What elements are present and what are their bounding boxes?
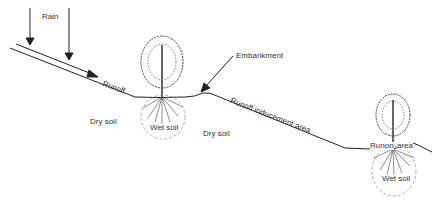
tree-icon bbox=[141, 36, 183, 97]
rain-label: Rain bbox=[42, 13, 58, 21]
wet-soil-label: Wet soil bbox=[150, 124, 178, 132]
area-label: area bbox=[397, 142, 413, 150]
diagram-canvas bbox=[0, 0, 432, 207]
dry-soil-label: Dry soil bbox=[90, 118, 117, 126]
runoff-arrow-icon bbox=[16, 44, 98, 77]
dry-soil-label: Dry soil bbox=[203, 130, 230, 138]
roots-icon bbox=[374, 149, 414, 176]
embankment-arrow-icon bbox=[201, 56, 233, 92]
wet-soil-label: Wet soil bbox=[382, 175, 410, 183]
tree-icon bbox=[376, 94, 410, 148]
roots-icon bbox=[143, 97, 183, 124]
wet-soil-zone bbox=[141, 95, 185, 139]
embankment-label: Embankment bbox=[236, 52, 283, 60]
runon-label: Runon bbox=[370, 142, 394, 150]
